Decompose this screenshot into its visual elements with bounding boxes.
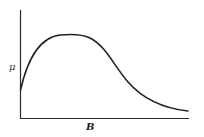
- x-axis-label: B: [85, 121, 94, 132]
- mu-vs-b-chart: μ B: [0, 0, 204, 137]
- mu-curve: [21, 34, 189, 111]
- y-axis-label: μ: [9, 61, 16, 72]
